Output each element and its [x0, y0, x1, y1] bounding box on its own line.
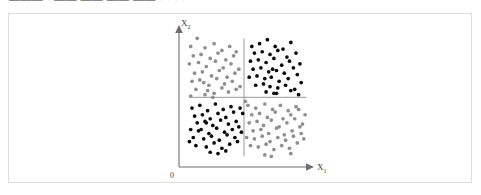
- data-point: [237, 67, 241, 71]
- data-point: [289, 41, 293, 45]
- scatter-plot-svg: X2 X1 0: [161, 17, 336, 181]
- data-point: [221, 108, 225, 112]
- data-point: [275, 126, 279, 130]
- data-point: [199, 53, 203, 57]
- data-point: [204, 121, 208, 125]
- data-point: [250, 45, 254, 49]
- data-point: [197, 61, 201, 65]
- data-point: [285, 55, 289, 59]
- data-point: [267, 70, 271, 74]
- data-point: [228, 142, 232, 146]
- data-point: [273, 110, 277, 114]
- data-point: [295, 141, 299, 145]
- data-point: [237, 125, 241, 129]
- data-point: [290, 129, 294, 133]
- data-point: [269, 154, 273, 158]
- x-axis-arrowhead: [306, 163, 314, 171]
- data-point: [277, 79, 281, 83]
- data-point: [260, 134, 264, 138]
- data-point: [251, 129, 255, 133]
- data-point: [212, 91, 216, 95]
- data-point: [260, 50, 264, 54]
- data-point: [228, 45, 232, 49]
- data-point: [281, 117, 285, 121]
- axes: [175, 25, 314, 171]
- data-point: [297, 108, 301, 112]
- data-point: [254, 106, 258, 110]
- data-point: [219, 118, 223, 122]
- data-point: [282, 133, 286, 137]
- clipped-header-text: ——— · —— —— —— —— · · · ·: [9, 0, 186, 5]
- data-point: [225, 133, 229, 137]
- data-point: [263, 102, 267, 106]
- data-point: [280, 63, 284, 67]
- data-point: [232, 110, 236, 114]
- data-point: [215, 126, 219, 130]
- data-point: [262, 82, 266, 86]
- data-point: [284, 138, 288, 142]
- data-point: [204, 145, 208, 149]
- data-point: [206, 89, 210, 93]
- data-point: [230, 128, 234, 132]
- data-point: [221, 66, 225, 70]
- data-point: [258, 112, 262, 116]
- data-point: [230, 79, 234, 83]
- data-point: [202, 137, 206, 141]
- data-point: [273, 45, 277, 49]
- data-point: [276, 136, 280, 140]
- data-point: [285, 121, 289, 125]
- data-point: [217, 138, 221, 142]
- data-point: [293, 87, 297, 91]
- data-point: [262, 124, 266, 128]
- data-point: [201, 113, 205, 117]
- data-point: [216, 51, 220, 55]
- data-point: [271, 108, 275, 112]
- data-point: [303, 113, 307, 117]
- data-point: [266, 38, 270, 42]
- data-point: [224, 58, 228, 62]
- data-point: [259, 128, 263, 132]
- data-point: [202, 81, 206, 85]
- data-point: [292, 66, 296, 70]
- data-point: [189, 128, 193, 132]
- data-point: [293, 117, 297, 121]
- data-point: [188, 140, 192, 144]
- data-point: [233, 136, 237, 140]
- data-point: [256, 145, 260, 149]
- data-point: [282, 71, 286, 75]
- data-point: [247, 121, 251, 125]
- data-point: [263, 153, 267, 157]
- data-point: [194, 144, 198, 148]
- data-point: [268, 85, 272, 89]
- data-point: [190, 106, 194, 110]
- data-point: [272, 148, 276, 152]
- data-point: [238, 106, 242, 110]
- data-point: [288, 146, 292, 150]
- data-point: [212, 141, 216, 145]
- data-point: [249, 144, 253, 148]
- data-point: [272, 57, 276, 61]
- data-point: [240, 130, 244, 134]
- data-point: [208, 57, 212, 61]
- data-point: [217, 69, 221, 73]
- data-point: [288, 59, 292, 63]
- data-point: [207, 83, 211, 87]
- data-point: [241, 112, 245, 116]
- data-point: [234, 120, 238, 124]
- x-axis-label: X1: [317, 162, 327, 174]
- data-point: [216, 152, 220, 156]
- data-point: [302, 137, 306, 141]
- data-point: [246, 104, 250, 108]
- data-point: [224, 116, 228, 120]
- data-point: [232, 54, 236, 58]
- data-point: [276, 86, 280, 90]
- data-point: [289, 113, 293, 117]
- scatter-plot: X2 X1 0: [161, 17, 336, 181]
- data-point: [189, 94, 193, 98]
- data-point: [223, 82, 227, 86]
- data-point: [227, 122, 231, 126]
- origin-label: 0: [170, 171, 174, 180]
- data-point: [289, 152, 293, 156]
- data-point: [224, 149, 228, 153]
- data-point: [258, 42, 262, 46]
